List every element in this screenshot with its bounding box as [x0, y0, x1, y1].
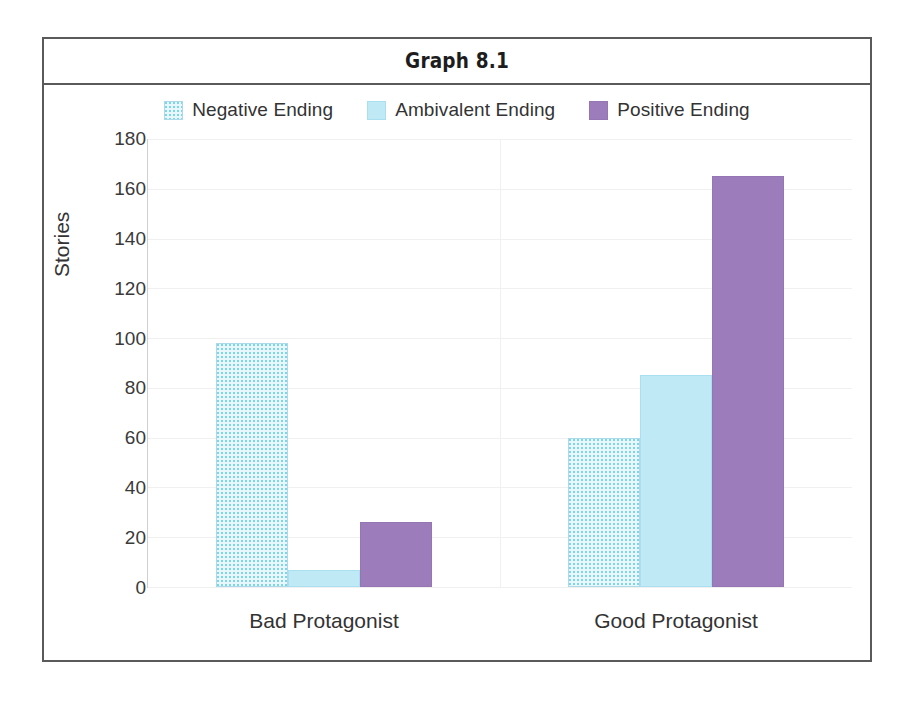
y-tick-label: 160 — [114, 178, 146, 200]
plot-area: Bad ProtagonistGood Protagonist — [147, 139, 852, 588]
legend-label-ambivalent: Ambivalent Ending — [395, 99, 555, 121]
y-tick-label: 40 — [125, 477, 146, 499]
ambivalent-swatch-icon — [367, 101, 386, 120]
legend-item-positive: Positive Ending — [589, 99, 749, 121]
y-tick-label: 180 — [114, 128, 146, 150]
bar-good-protagonist-positive-ending[interactable] — [712, 176, 784, 587]
y-tick-label: 120 — [114, 278, 146, 300]
y-tick-label: 140 — [114, 228, 146, 250]
positive-swatch-icon — [589, 101, 608, 120]
bar-good-protagonist-negative-ending[interactable] — [568, 438, 640, 587]
bar-group-bad-protagonist: Bad Protagonist — [148, 139, 500, 587]
legend-label-positive: Positive Ending — [617, 99, 749, 121]
gridline — [148, 587, 852, 588]
negative-swatch-icon — [164, 101, 183, 120]
bar-bad-protagonist-negative-ending[interactable] — [216, 343, 288, 587]
bar-good-protagonist-ambivalent-ending[interactable] — [640, 375, 712, 587]
bar-bad-protagonist-ambivalent-ending[interactable] — [288, 570, 360, 587]
x-category-label: Bad Protagonist — [148, 609, 500, 633]
bar-bad-protagonist-positive-ending[interactable] — [360, 522, 432, 587]
legend-label-negative: Negative Ending — [192, 99, 333, 121]
y-axis-title: Stories — [50, 212, 74, 277]
y-tick-label: 20 — [125, 527, 146, 549]
title-band: Graph 8.1 — [44, 39, 870, 85]
y-axis-tick-labels: 020406080100120140160180 — [88, 127, 146, 660]
chart-legend: Negative Ending Ambivalent Ending Positi… — [44, 93, 870, 127]
y-tick-label: 60 — [125, 427, 146, 449]
plot-wrap: Stories 020406080100120140160180 Bad Pro… — [44, 127, 870, 660]
legend-item-negative: Negative Ending — [164, 99, 333, 121]
chart-title: Graph 8.1 — [405, 49, 509, 73]
bar-group-good-protagonist: Good Protagonist — [500, 139, 852, 587]
legend-item-ambivalent: Ambivalent Ending — [367, 99, 555, 121]
figure-frame: Graph 8.1 Negative Ending Ambivalent End… — [42, 37, 872, 662]
x-category-label: Good Protagonist — [500, 609, 852, 633]
y-tick-label: 100 — [114, 328, 146, 350]
y-tick-label: 0 — [135, 577, 146, 599]
y-tick-label: 80 — [125, 377, 146, 399]
